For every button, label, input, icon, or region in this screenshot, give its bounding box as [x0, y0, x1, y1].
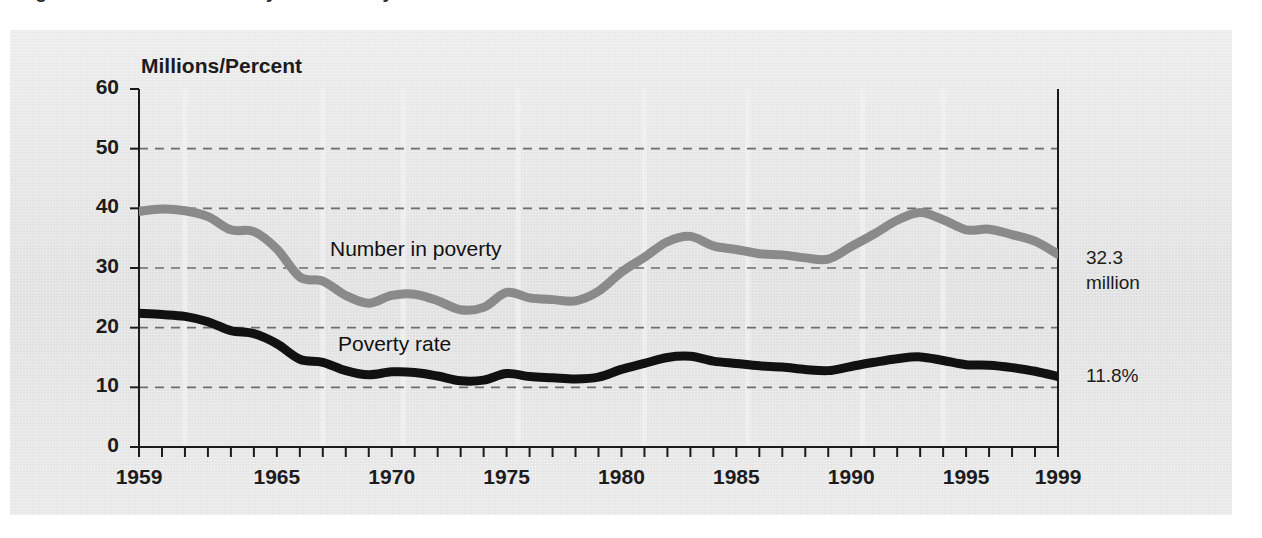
series-label-poverty-rate: Poverty rate: [338, 332, 451, 356]
y-axis-ticks: [130, 89, 139, 447]
series-label-number-in-poverty: Number in poverty: [330, 237, 502, 261]
x-axis-label-1959: 1959: [89, 465, 189, 489]
x-axis-label-1970: 1970: [342, 465, 442, 489]
y-axis-label-0: 0: [73, 433, 119, 457]
x-axis-label-1999: 1999: [1008, 465, 1108, 489]
annotation-number-value: 32.3 million: [1086, 245, 1140, 295]
plot-frame: [139, 89, 1058, 447]
series-line-number-in-poverty: [139, 209, 1058, 310]
x-axis-label-1965: 1965: [227, 465, 327, 489]
y-axis-label-30: 30: [73, 254, 119, 278]
x-axis-label-1980: 1980: [571, 465, 671, 489]
gridlines: [139, 149, 1058, 388]
series-line-poverty-rate: [139, 313, 1058, 381]
y-axis-label-50: 50: [73, 135, 119, 159]
chart-plot: [0, 0, 1262, 538]
y-axis-label-40: 40: [73, 194, 119, 218]
x-axis-label-1975: 1975: [457, 465, 557, 489]
y-axis-label-10: 10: [73, 373, 119, 397]
x-axis-label-1985: 1985: [686, 465, 786, 489]
poverty-figure: Figure 1. Number in Poverty and Poverty …: [0, 0, 1262, 538]
y-axis-label-60: 60: [73, 75, 119, 99]
x-axis-label-1990: 1990: [801, 465, 901, 489]
x-axis-ticks: [139, 447, 1058, 457]
x-axis-label-1995: 1995: [916, 465, 1016, 489]
y-axis-label-20: 20: [73, 314, 119, 338]
annotation-rate-value: 11.8%: [1086, 363, 1138, 388]
